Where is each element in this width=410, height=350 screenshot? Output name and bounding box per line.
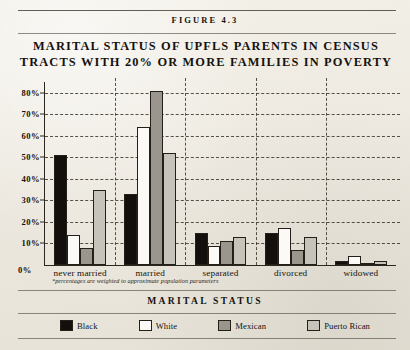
- legend-item-mexican: Mexican: [218, 320, 266, 331]
- y-axis-tick-10: [40, 243, 44, 244]
- y-axis-label-10: 10%: [22, 238, 40, 248]
- bar-group-never-married: never married: [54, 82, 106, 265]
- chart-plot-area: 80%70%60%50%40%30%20%10%never marriedmar…: [44, 82, 396, 266]
- bar-group-widowed: widowed: [335, 82, 387, 265]
- y-axis-label-20: 20%: [22, 217, 40, 227]
- bar-group-divorced: divorced: [265, 82, 317, 265]
- bar-set: [265, 82, 317, 265]
- legend-label-puerto: Puerto Rican: [324, 321, 370, 331]
- bar-married-black: [124, 194, 137, 265]
- group-separator-3: [256, 78, 257, 265]
- page-title: MARITAL STATUS OF UPFLS PARENTS IN CENSU…: [14, 39, 398, 70]
- figure-header: FIGURE 4.3: [0, 15, 410, 25]
- bar-married-mexican: [150, 91, 163, 265]
- bar-separated-black: [195, 233, 208, 265]
- y-axis-tick-50: [40, 157, 44, 158]
- bar-divorced-black: [265, 233, 278, 265]
- bar-married-puerto-rican: [163, 153, 176, 265]
- legend-swatch-mexican: [218, 320, 231, 331]
- x-axis-label-divorced: divorced: [274, 268, 307, 278]
- bar-never-married-puerto-rican: [93, 190, 106, 265]
- top-rule: [18, 10, 396, 11]
- bar-widowed-puerto-rican: [374, 261, 387, 265]
- legend-item-puerto: Puerto Rican: [307, 320, 370, 331]
- y-axis-tick-20: [40, 221, 44, 222]
- bar-set: [335, 82, 387, 265]
- bar-separated-white: [208, 246, 221, 265]
- bar-divorced-puerto-rican: [304, 237, 317, 265]
- legend-swatch-white: [139, 320, 152, 331]
- legend-item-black: Black: [60, 320, 98, 331]
- header-rule: [18, 33, 396, 34]
- x-axis-title: MARITAL STATUS: [0, 295, 410, 306]
- y-axis-label-70: 70%: [22, 109, 40, 119]
- legend-rule-top: [18, 313, 396, 314]
- y-axis-label-40: 40%: [22, 173, 40, 183]
- bar-group-separated: separated: [195, 82, 247, 265]
- bar-set: [124, 82, 176, 265]
- bar-separated-mexican: [220, 241, 233, 265]
- bar-set: [54, 82, 106, 265]
- legend-item-white: White: [139, 320, 178, 331]
- legend-swatch-puerto: [307, 320, 320, 331]
- group-separator-2: [185, 78, 186, 265]
- chart-legend: BlackWhiteMexicanPuerto Rican: [60, 320, 370, 331]
- group-separator-1: [115, 78, 116, 265]
- y-axis-label-30: 30%: [22, 195, 40, 205]
- y-axis-tick-70: [40, 114, 44, 115]
- legend-label-black: Black: [77, 321, 98, 331]
- bar-never-married-black: [54, 155, 67, 265]
- bar-divorced-mexican: [291, 250, 304, 265]
- legend-swatch-black: [60, 320, 73, 331]
- bar-group-married: married: [124, 82, 176, 265]
- legend-label-mexican: Mexican: [235, 321, 266, 331]
- y-axis-label-80: 80%: [22, 87, 40, 97]
- bar-never-married-white: [67, 235, 80, 265]
- legend-label-white: White: [156, 321, 178, 331]
- title-line-2: TRACTS WITH 20% OR MORE FAMILIES IN POVE…: [14, 55, 398, 71]
- y-axis-tick-40: [40, 178, 44, 179]
- bar-widowed-black: [335, 261, 348, 265]
- legend-rule-bottom: [18, 338, 396, 339]
- bar-never-married-mexican: [80, 248, 93, 265]
- bar-married-white: [137, 127, 150, 265]
- bar-separated-puerto-rican: [233, 237, 246, 265]
- axis-title-rule-top: [18, 290, 396, 291]
- y-axis-zero-label: 0%: [18, 265, 32, 275]
- y-axis-label-60: 60%: [22, 130, 40, 140]
- x-axis-label-widowed: widowed: [344, 268, 379, 278]
- y-axis-tick-80: [40, 92, 44, 93]
- bar-widowed-mexican: [361, 263, 374, 265]
- bar-set: [195, 82, 247, 265]
- y-axis-label-50: 50%: [22, 152, 40, 162]
- bar-divorced-white: [278, 228, 291, 265]
- chart-footnote: *percentages are weighted to approximate…: [52, 277, 218, 284]
- y-axis-tick-60: [40, 135, 44, 136]
- bar-widowed-white: [348, 256, 361, 265]
- title-line-1: MARITAL STATUS OF UPFLS PARENTS IN CENSU…: [14, 39, 398, 55]
- group-separator-4: [326, 78, 327, 265]
- y-axis-tick-30: [40, 200, 44, 201]
